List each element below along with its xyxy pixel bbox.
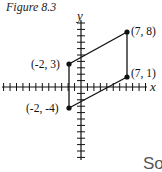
y-axis-label: y bbox=[77, 8, 83, 24]
point-label: (-2, -4) bbox=[26, 102, 59, 114]
point-label: (7, 8) bbox=[131, 25, 156, 37]
x-axis-label: x bbox=[150, 79, 156, 95]
parallelogram bbox=[69, 32, 127, 108]
point-7-8 bbox=[124, 29, 129, 34]
edge-bottom bbox=[69, 77, 127, 108]
point-neg2-3 bbox=[66, 61, 71, 66]
point-7-1 bbox=[124, 74, 129, 79]
trailing-text: So bbox=[143, 154, 162, 172]
point-label: (-2, 3) bbox=[31, 58, 60, 70]
point-label: (7, 1) bbox=[131, 67, 156, 79]
point-neg2-neg4 bbox=[66, 105, 71, 110]
edge-top bbox=[69, 32, 127, 64]
